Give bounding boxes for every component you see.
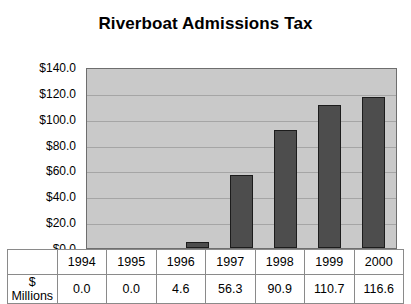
bar-slot [264,69,308,248]
y-tick-label: $80.0 [46,139,76,153]
bar-1997[interactable] [230,175,253,248]
bar-1998[interactable] [274,130,297,248]
bar-slot [308,69,352,248]
table-year-cell: 2000 [354,250,404,275]
table-row-years: 1994199519961997199819992000 [8,250,404,275]
bar-2000[interactable] [362,97,385,248]
y-tick-label: $120.0 [39,87,76,101]
table-value-cell: 56.3 [206,275,256,304]
table-value-cell: 116.6 [354,275,404,304]
table-year-cell: 1999 [305,250,355,275]
bar-1996[interactable] [186,242,209,248]
table-value-cell: 110.7 [305,275,355,304]
table-year-cell: 1994 [57,250,107,275]
table-year-cell: 1995 [107,250,157,275]
y-axis: $140.0$120.0$100.0$80.0$60.0$40.0$20.0$0… [0,68,81,249]
table-value-cell: 0.0 [57,275,107,304]
y-tick-label: $20.0 [46,216,76,230]
plot-area [86,68,397,249]
bar-slot [87,69,131,248]
bar-series [87,69,396,248]
y-tick-label: $40.0 [46,190,76,204]
table-year-cell: 1998 [255,250,305,275]
bar-slot [131,69,175,248]
table-value-cell: 4.6 [156,275,206,304]
y-tick-label: $60.0 [46,164,76,178]
table-corner-cell [8,250,58,275]
table-row-header: $ Millions [8,275,58,304]
chart-figure: Riverboat Admissions Tax $140.0$120.0$10… [0,0,411,304]
bar-slot [175,69,219,248]
table-year-cell: 1996 [156,250,206,275]
bar-slot [219,69,263,248]
table-value-cell: 90.9 [255,275,305,304]
y-tick-label: $100.0 [39,113,76,127]
bar-slot [352,69,396,248]
table-year-cell: 1997 [206,250,256,275]
table-row-values: $ Millions 0.00.04.656.390.9110.7116.6 [8,275,404,304]
data-table: 1994199519961997199819992000 $ Millions … [7,249,404,304]
chart-title: Riverboat Admissions Tax [0,14,411,34]
y-tick-label: $140.0 [39,61,76,75]
table-value-cell: 0.0 [107,275,157,304]
bar-1999[interactable] [318,105,341,248]
